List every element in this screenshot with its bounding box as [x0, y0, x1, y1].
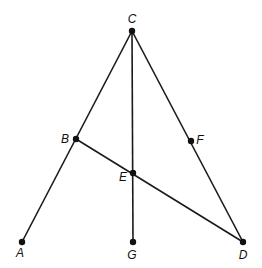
segment-cg [132, 31, 133, 242]
label-a: A [15, 246, 24, 260]
label-d: D [239, 248, 248, 262]
label-g: G [127, 248, 136, 262]
label-f: F [196, 133, 204, 147]
point-d [240, 239, 246, 245]
label-e: E [119, 170, 128, 184]
geometry-diagram: ABCDEFG [0, 0, 262, 268]
point-b [73, 136, 79, 142]
segment-bd [76, 139, 243, 242]
point-e [130, 170, 136, 176]
line-segments [22, 31, 243, 242]
label-c: C [128, 12, 137, 26]
point-c [129, 28, 135, 34]
point-g [130, 239, 136, 245]
segment-cd [132, 31, 243, 242]
point-f [188, 138, 194, 144]
label-b: B [61, 132, 69, 146]
point-a [19, 239, 25, 245]
